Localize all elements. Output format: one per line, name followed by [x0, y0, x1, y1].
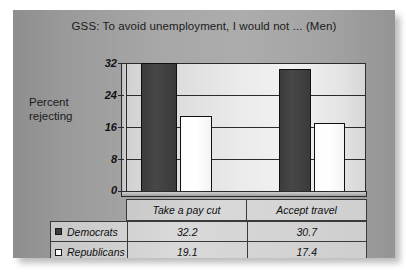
legend-cell-republicans: Republicans [51, 242, 128, 258]
filled-square-icon [55, 228, 62, 235]
y-tick-mark-32 [118, 63, 124, 64]
data-table: Democrats 32.2 30.7 Republicans 19.1 17.… [50, 221, 367, 258]
y-tick-label-8: 8 [85, 153, 117, 165]
legend-label-republicans: Republicans [67, 246, 125, 258]
y-tick-label-0: 0 [85, 184, 117, 196]
y-tick-label-24: 24 [85, 89, 117, 101]
bar-democrats-take-a-pay-cut [141, 63, 177, 193]
bar-democrats-accept-travel [279, 69, 311, 193]
y-tick-mark-8 [118, 159, 124, 160]
bar-republicans-accept-travel [314, 123, 345, 193]
legend-label-democrats: Democrats [67, 226, 118, 238]
chart-title: GSS: To avoid unemployment, I would not … [13, 20, 395, 32]
category-label-row: Take a pay cut Accept travel [126, 199, 367, 221]
y-tick-mark-16 [118, 127, 124, 128]
plot-area [126, 63, 366, 192]
category-label-accept-travel: Accept travel [247, 200, 366, 220]
chart-panel: GSS: To avoid unemployment, I would not … [13, 10, 395, 258]
cell-republicans-take-a-pay-cut: 19.1 [128, 242, 248, 258]
bar-republicans-take-a-pay-cut [180, 116, 212, 193]
y-tick-label-32: 32 [85, 57, 117, 69]
category-label-take-a-pay-cut: Take a pay cut [127, 200, 247, 220]
cell-republicans-accept-travel: 17.4 [248, 242, 367, 258]
empty-square-icon [55, 249, 62, 256]
plot-floor [121, 191, 367, 197]
chart-screenshot: GSS: To avoid unemployment, I would not … [0, 0, 406, 277]
cell-democrats-take-a-pay-cut: 32.2 [128, 222, 248, 241]
y-tick-mark-24 [118, 95, 124, 96]
table-row-republicans: Republicans 19.1 17.4 [51, 242, 366, 258]
legend-cell-democrats: Democrats [51, 222, 128, 241]
y-tick-label-16: 16 [85, 121, 117, 133]
table-row-democrats: Democrats 32.2 30.7 [51, 222, 366, 242]
cell-democrats-accept-travel: 30.7 [248, 222, 367, 241]
